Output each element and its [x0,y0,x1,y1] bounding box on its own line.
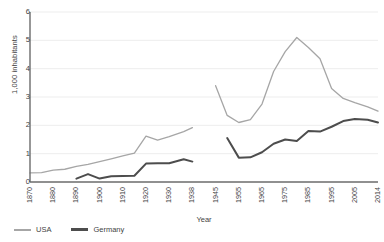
x-axis-tick: 1920 [142,187,149,203]
chart-legend: USA Germany [14,226,124,234]
x-axis-tick: 1985 [304,187,311,203]
legend-item-germany: Germany [71,226,124,234]
series-line-germany [76,159,192,178]
y-axis-tick: 1 [14,150,30,158]
series-line-usa [216,38,378,123]
legend-swatch-germany [71,228,88,231]
x-axis-tick: 2005 [351,187,358,203]
x-axis-tick: 2014 [374,187,381,203]
x-axis-tick: 1975 [281,187,288,203]
legend-label-usa: USA [36,226,51,234]
x-axis-tick: 1900 [96,187,103,203]
x-axis-tick: 1910 [119,187,126,203]
plot-area [0,0,384,242]
y-axis-tick: 0 [14,178,30,186]
x-axis-title: Year [30,215,378,224]
x-axis-tick: 1995 [328,187,335,203]
y-axis-tick: 3 [14,93,30,101]
y-axis-tick: 5 [14,36,30,44]
y-axis-tick: 4 [14,65,30,73]
y-axis-tick: 2 [14,121,30,129]
legend-item-usa: USA [14,226,51,234]
x-axis-tick: 1938 [188,187,195,203]
y-axis-tick-labels: 0123456 [0,0,30,242]
x-axis-tick: 1870 [26,187,33,203]
legend-label-germany: Germany [93,226,124,234]
x-axis-tick: 1880 [49,187,56,203]
x-axis-tick: 1890 [72,187,79,203]
x-axis-tick: 1955 [235,187,242,203]
series-line-germany [227,119,378,158]
y-axis-tick: 6 [14,8,30,16]
series-line-usa [30,128,192,173]
legend-swatch-usa [14,229,31,231]
x-axis-tick: 1945 [212,187,219,203]
x-axis-tick: 1965 [258,187,265,203]
x-axis-tick: 1930 [165,187,172,203]
line-chart: 1,000 inhabitants 0123456 18701880189019… [0,0,384,242]
